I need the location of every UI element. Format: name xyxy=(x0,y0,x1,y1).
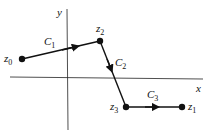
point-z0: z0 xyxy=(3,52,25,67)
segment-c2: C2 xyxy=(100,41,126,107)
y-axis-label: y xyxy=(56,6,62,18)
x-axis xyxy=(10,77,203,79)
svg-text:C1: C1 xyxy=(44,35,55,50)
svg-text:z0: z0 xyxy=(3,52,12,67)
y-axis xyxy=(67,9,68,130)
segment-c3: C3 xyxy=(126,88,182,107)
point-z3: z3 xyxy=(109,100,129,115)
svg-text:C2: C2 xyxy=(115,56,126,71)
segment-c1: C1 xyxy=(22,35,100,59)
point-z1: z1 xyxy=(179,100,196,115)
svg-text:C3: C3 xyxy=(147,88,158,103)
point-z2: z2 xyxy=(95,22,104,44)
svg-text:z3: z3 xyxy=(109,100,118,115)
contour-diagram: x y C1 C2 C3 z0 z2 z3 z1 xyxy=(0,0,207,135)
svg-text:z1: z1 xyxy=(187,100,196,115)
svg-text:z2: z2 xyxy=(95,22,104,37)
x-axis-label: x xyxy=(195,82,201,94)
